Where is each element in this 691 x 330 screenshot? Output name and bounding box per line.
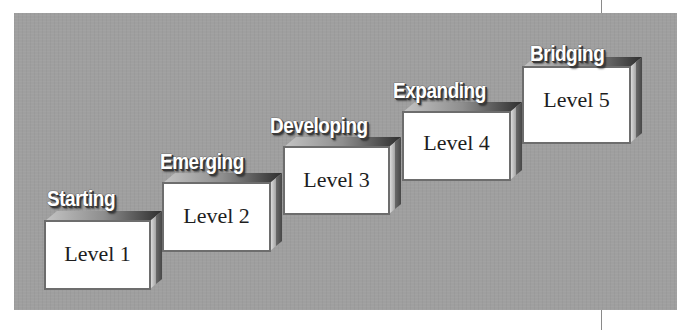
guide-line-top (601, 0, 602, 13)
level-label: Level 3 (284, 167, 389, 193)
step-title-emerging: Emerging (160, 149, 244, 175)
guide-line-bottom (601, 310, 602, 330)
level-label: Level 2 (163, 203, 270, 229)
level-label: Level 1 (45, 241, 150, 267)
level-label: Level 4 (403, 130, 510, 156)
level-label: Level 5 (523, 87, 630, 113)
step-title-bridging: Bridging (530, 41, 604, 67)
step-title-expanding: Expanding (393, 78, 486, 104)
step-title-developing: Developing (270, 113, 368, 139)
step-title-starting: Starting (47, 186, 115, 212)
